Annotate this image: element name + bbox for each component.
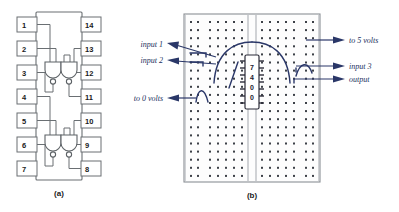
breadboard-hole[interactable] — [305, 102, 307, 104]
breadboard-hole[interactable] — [261, 167, 263, 169]
breadboard-hole[interactable] — [261, 126, 263, 128]
breadboard-hole[interactable] — [217, 175, 219, 177]
breadboard-hole[interactable] — [269, 94, 271, 96]
breadboard-hole[interactable] — [233, 29, 235, 31]
breadboard-hole[interactable] — [233, 53, 235, 55]
pin-pad-right-9[interactable] — [81, 137, 101, 152]
breadboard-hole[interactable] — [269, 78, 271, 80]
breadboard-hole[interactable] — [261, 62, 263, 64]
breadboard-hole[interactable] — [217, 37, 219, 39]
breadboard-hole[interactable] — [261, 86, 263, 88]
breadboard-hole[interactable] — [241, 86, 243, 88]
breadboard-hole[interactable] — [312, 21, 314, 23]
breadboard-hole[interactable] — [285, 118, 287, 120]
breadboard-hole[interactable] — [190, 134, 192, 136]
breadboard-hole[interactable] — [277, 45, 279, 47]
breadboard-hole[interactable] — [293, 53, 295, 55]
breadboard-hole[interactable] — [305, 126, 307, 128]
breadboard-hole[interactable] — [233, 102, 235, 104]
breadboard-hole[interactable] — [217, 78, 219, 80]
breadboard-hole[interactable] — [293, 159, 295, 161]
breadboard-hole[interactable] — [209, 143, 211, 145]
breadboard-hole[interactable] — [197, 167, 199, 169]
pin-pad-left-2[interactable] — [17, 41, 37, 56]
breadboard-hole[interactable] — [269, 110, 271, 112]
breadboard-hole[interactable] — [312, 53, 314, 55]
breadboard-hole[interactable] — [225, 167, 227, 169]
breadboard-hole[interactable] — [269, 167, 271, 169]
breadboard-hole[interactable] — [305, 45, 307, 47]
breadboard-hole[interactable] — [233, 151, 235, 153]
breadboard-hole[interactable] — [305, 21, 307, 23]
breadboard-hole[interactable] — [209, 86, 211, 88]
breadboard-hole[interactable] — [233, 143, 235, 145]
breadboard-hole[interactable] — [241, 53, 243, 55]
breadboard-hole[interactable] — [190, 151, 192, 153]
breadboard-hole[interactable] — [269, 118, 271, 120]
breadboard-hole[interactable] — [312, 62, 314, 64]
breadboard-hole[interactable] — [305, 86, 307, 88]
breadboard-hole[interactable] — [217, 159, 219, 161]
breadboard-hole[interactable] — [209, 45, 211, 47]
breadboard-hole[interactable] — [241, 110, 243, 112]
breadboard-hole[interactable] — [305, 62, 307, 64]
breadboard-hole[interactable] — [209, 29, 211, 31]
breadboard-hole[interactable] — [285, 29, 287, 31]
breadboard-hole[interactable] — [293, 62, 295, 64]
breadboard-hole[interactable] — [225, 94, 227, 96]
breadboard-hole[interactable] — [305, 118, 307, 120]
breadboard-hole[interactable] — [277, 53, 279, 55]
breadboard-hole[interactable] — [293, 175, 295, 177]
breadboard-hole[interactable] — [269, 159, 271, 161]
breadboard-hole[interactable] — [209, 78, 211, 80]
breadboard-hole[interactable] — [225, 78, 227, 80]
breadboard-hole[interactable] — [241, 70, 243, 72]
breadboard-hole[interactable] — [277, 86, 279, 88]
breadboard-hole[interactable] — [217, 94, 219, 96]
breadboard-hole[interactable] — [261, 118, 263, 120]
breadboard-hole[interactable] — [190, 118, 192, 120]
breadboard-hole[interactable] — [233, 21, 235, 23]
breadboard-hole[interactable] — [269, 62, 271, 64]
breadboard-hole[interactable] — [293, 102, 295, 104]
breadboard-hole[interactable] — [190, 37, 192, 39]
breadboard-hole[interactable] — [209, 37, 211, 39]
breadboard-hole[interactable] — [277, 102, 279, 104]
breadboard-hole[interactable] — [285, 86, 287, 88]
breadboard-hole[interactable] — [197, 134, 199, 136]
breadboard-hole[interactable] — [277, 110, 279, 112]
breadboard-hole[interactable] — [241, 126, 243, 128]
breadboard-hole[interactable] — [277, 126, 279, 128]
breadboard-hole[interactable] — [225, 21, 227, 23]
breadboard-hole[interactable] — [209, 21, 211, 23]
breadboard-hole[interactable] — [285, 126, 287, 128]
breadboard-hole[interactable] — [190, 78, 192, 80]
breadboard-hole[interactable] — [261, 175, 263, 177]
breadboard-hole[interactable] — [217, 102, 219, 104]
breadboard-hole[interactable] — [285, 37, 287, 39]
breadboard-hole[interactable] — [312, 70, 314, 72]
breadboard-hole[interactable] — [312, 143, 314, 145]
breadboard-hole[interactable] — [209, 151, 211, 153]
breadboard-hole[interactable] — [305, 110, 307, 112]
breadboard-hole[interactable] — [285, 159, 287, 161]
breadboard-hole[interactable] — [277, 37, 279, 39]
breadboard-hole[interactable] — [225, 86, 227, 88]
breadboard-hole[interactable] — [293, 126, 295, 128]
breadboard-hole[interactable] — [217, 21, 219, 23]
breadboard-hole[interactable] — [269, 175, 271, 177]
breadboard-hole[interactable] — [305, 53, 307, 55]
breadboard-hole[interactable] — [312, 134, 314, 136]
breadboard-hole[interactable] — [217, 151, 219, 153]
breadboard-hole[interactable] — [209, 175, 211, 177]
breadboard-hole[interactable] — [233, 86, 235, 88]
breadboard-hole[interactable] — [261, 151, 263, 153]
breadboard-hole[interactable] — [312, 45, 314, 47]
pin-pad-left-7[interactable] — [17, 161, 37, 176]
breadboard-hole[interactable] — [233, 78, 235, 80]
breadboard-hole[interactable] — [277, 167, 279, 169]
breadboard-hole[interactable] — [190, 143, 192, 145]
breadboard-hole[interactable] — [225, 118, 227, 120]
breadboard-hole[interactable] — [190, 70, 192, 72]
breadboard-hole[interactable] — [241, 151, 243, 153]
